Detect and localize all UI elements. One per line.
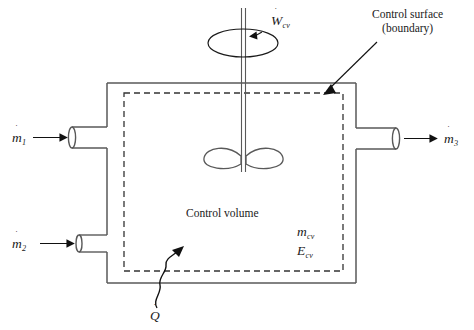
mass-dot-accent-1: ˙ — [15, 124, 18, 133]
flow-arrows — [33, 138, 437, 244]
control-surface-label-line2: (boundary) — [372, 22, 443, 36]
inlet-pipe-1-opening — [68, 127, 75, 148]
inlet-2-mass-flow-label: ˙m2 — [12, 236, 26, 252]
heat-dot-accent: ˙ — [153, 303, 156, 312]
tank-wall — [107, 83, 356, 283]
rotation-indicator — [208, 29, 278, 57]
inlet-pipe-2 — [76, 235, 107, 252]
heat-rate-label: ˙Q — [150, 308, 160, 324]
heat-symbol-group: ˙Q — [150, 308, 160, 324]
control-surface-leader — [323, 42, 377, 95]
control-surface-label-line1: Control surface — [372, 8, 443, 22]
impeller-propeller — [204, 148, 283, 172]
mass-dot-accent-3: ˙ — [447, 125, 450, 134]
mass-cv-symbol: m — [297, 224, 307, 239]
inlet-1-mass-flow-label: ˙m1 — [12, 130, 26, 146]
control-volume-diagram — [0, 0, 474, 330]
stirrer-shaft — [242, 8, 246, 160]
rotation-ellipse — [208, 29, 278, 57]
mass-symbol-group-2: ˙m — [12, 236, 22, 252]
impeller-blade-right — [246, 148, 283, 168]
work-rate-label: ˙Wcv — [271, 13, 290, 29]
mass-dot-accent-2: ˙ — [15, 230, 18, 239]
rotation-arrowhead — [249, 32, 258, 40]
inlet-pipe-1 — [68, 127, 107, 148]
work-subscript: cv — [283, 21, 290, 30]
control-volume-label: Control volume — [186, 207, 259, 221]
energy-cv-subscript: cv — [306, 251, 313, 260]
control-surface-label: Control surface (boundary) — [372, 8, 443, 35]
mass-symbol-group-1: ˙m — [12, 130, 22, 146]
figure-canvas: ˙Wcv Control surface (boundary) ˙m1 ˙m2 … — [0, 0, 474, 330]
heat-transfer-arrow — [156, 246, 184, 308]
outlet-3-subscript: 3 — [454, 139, 458, 148]
mass-cv-subscript: cv — [307, 232, 314, 241]
impeller-blade-left — [204, 148, 241, 168]
outlet-pipe-3-opening — [392, 128, 399, 149]
energy-cv-label: Ecv — [297, 243, 313, 259]
mass-cv-label: mcv — [297, 224, 314, 240]
outlet-3-mass-flow-label: ˙m3 — [444, 131, 458, 147]
inlet-1-subscript: 1 — [22, 138, 26, 147]
work-dot-accent: ˙ — [274, 7, 277, 16]
inlet-2-subscript: 2 — [22, 244, 26, 253]
energy-cv-symbol: E — [297, 243, 305, 258]
outlet-pipe-3 — [356, 128, 400, 149]
mass-symbol-group-3: ˙m — [444, 131, 454, 147]
inlet-pipe-2-opening — [76, 235, 82, 252]
work-symbol-group: ˙W — [271, 13, 282, 29]
heat-wavy-line — [156, 252, 177, 308]
heat-arrowhead — [172, 246, 184, 257]
